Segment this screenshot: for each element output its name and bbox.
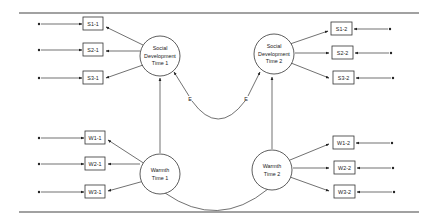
error-label-2: E [244, 96, 248, 102]
svg-text:Social: Social [267, 43, 282, 49]
indicator-w3-2: W3-2 [338, 189, 351, 195]
indicator-w1-1: W1-1 [89, 135, 102, 141]
structural-paths [160, 72, 272, 211]
svg-text:Warmth: Warmth [263, 163, 282, 169]
factor-sd-time2: Social Development Time 2 [254, 34, 294, 74]
indicator-s2-1: S2-1 [87, 47, 98, 53]
right-indicators: S1-2 S2-2 S3-2 W1-2 W2-2 W3-2 [331, 22, 355, 198]
svg-text:Social: Social [153, 45, 168, 51]
factor-warmth-time2: Warmth Time 2 [252, 150, 292, 190]
indicator-s3-1: S3-1 [87, 75, 98, 81]
svg-text:Warmth: Warmth [151, 167, 170, 173]
indicator-w1-2: W1-2 [337, 140, 350, 146]
svg-text:Development: Development [144, 53, 176, 59]
left-error-arrows [38, 23, 84, 193]
left-loadings [106, 27, 145, 191]
sem-diagram: E E S1-1 S2-1 S3-1 W1-1 W2-1 W3-1 S1-2 S… [0, 0, 436, 223]
indicator-s3-2: S3-2 [338, 75, 349, 81]
indicator-w2-1: W2-1 [89, 161, 102, 167]
indicator-w3-1: W3-1 [89, 189, 102, 195]
svg-text:Time 2: Time 2 [264, 171, 280, 177]
indicator-s2-2: S2-2 [337, 50, 348, 56]
error-covariance-curve [192, 101, 245, 119]
right-loadings [290, 31, 329, 191]
indicator-s1-1: S1-1 [87, 21, 98, 27]
svg-text:Time 1: Time 1 [152, 60, 168, 66]
svg-text:Time 2: Time 2 [266, 58, 282, 64]
error-label-1: E [188, 96, 192, 102]
right-error-arrows [354, 28, 395, 193]
warmth-covariance-curve [165, 189, 268, 211]
svg-text:Development: Development [258, 51, 290, 57]
indicator-w2-2: W2-2 [338, 165, 351, 171]
indicator-s1-2: S1-2 [336, 26, 347, 32]
left-indicators: S1-1 S2-1 S3-1 W1-1 W2-1 W3-1 [83, 17, 105, 198]
factor-warmth-time1: Warmth Time 1 [140, 154, 180, 194]
svg-text:Time 1: Time 1 [152, 175, 168, 181]
factor-sd-time1: Social Development Time 1 [140, 36, 180, 76]
